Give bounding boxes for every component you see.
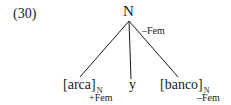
leaf-arca-text: [arca]: [63, 77, 96, 92]
root-feature: –Fem: [142, 26, 165, 36]
leaf-banco: [banco]N: [160, 78, 210, 92]
leaf-y: y: [129, 78, 136, 92]
leaf-arca: [arca]N: [63, 78, 102, 92]
leaf-y-text: y: [129, 77, 136, 92]
edge-root-to-y: [129, 21, 131, 79]
leaf-banco-feature: –Fem: [197, 93, 220, 103]
leaf-banco-text: [banco]: [160, 77, 203, 92]
edge-root-to-arca: [80, 21, 129, 77]
root-node-label: N: [123, 4, 134, 19]
leaf-arca-feature: +Fem: [89, 93, 112, 103]
